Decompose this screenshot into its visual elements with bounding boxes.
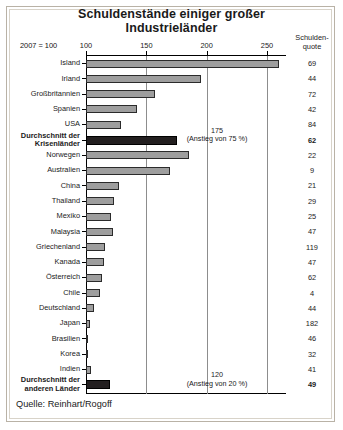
row-quote-value: 62 [288,133,336,148]
row-label: Australien [8,163,80,178]
bar[interactable] [86,151,189,159]
annotation-detail: (Anstieg von 20 %) [187,379,248,388]
row-label: Deutschland [8,301,80,316]
row-quote-value: 119 [288,240,336,255]
row-quote-value: 44 [288,71,336,86]
average-annotation: 120(Anstieg von 20 %) [157,371,277,388]
bar[interactable] [86,243,105,251]
bar[interactable] [86,274,102,282]
chart-row[interactable]: Chile4 [0,286,343,301]
bar[interactable] [86,350,88,358]
axis-tick-label: 100 [80,41,92,50]
row-quote-value: 32 [288,347,336,362]
bar[interactable] [86,60,279,68]
bar[interactable] [86,304,94,312]
bar[interactable] [86,75,201,83]
chart-row[interactable]: Malaysia47 [0,224,343,239]
row-quote-value: 182 [288,316,336,331]
row-quote-value: 29 [288,194,336,209]
row-quote-value: 47 [288,224,336,239]
chart-row[interactable]: Griechenland119 [0,240,343,255]
row-label: Spanien [8,102,80,117]
axis-tick-label: 250 [261,41,273,50]
row-label: Chile [8,286,80,301]
row-label: Island [8,56,80,71]
axis-bottom-line [86,393,286,394]
bar[interactable] [86,320,90,328]
chart-row[interactable]: China21 [0,178,343,193]
chart-row[interactable]: Brasilien46 [0,331,343,346]
chart-row[interactable]: Österreich62 [0,270,343,285]
row-label: China [8,178,80,193]
source-note: Quelle: Reinhart/Rogoff [16,399,112,409]
row-label: Kanada [8,255,80,270]
bar[interactable] [86,121,121,129]
row-label: Brasilien [8,331,80,346]
bar[interactable] [86,380,110,389]
chart-row[interactable]: Norwegen22 [0,148,343,163]
bar[interactable] [86,213,111,221]
chart-row[interactable]: Japan182 [0,316,343,331]
chart-row[interactable]: Irland44 [0,71,343,86]
bar[interactable] [86,366,91,374]
row-quote-value: 44 [288,301,336,316]
axis-tick-label: 150 [140,41,152,50]
bar[interactable] [86,289,100,297]
chart-row[interactable]: Island69 [0,56,343,71]
row-quote-value: 9 [288,163,336,178]
bar[interactable] [86,197,114,205]
row-label: USA [8,117,80,132]
row-label: Großbritannien [8,87,80,102]
row-quote-value: 69 [288,56,336,71]
row-label: Irland [8,71,80,86]
row-label: Österreich [8,270,80,285]
row-label: Norwegen [8,148,80,163]
bar[interactable] [86,228,113,236]
row-quote-value: 22 [288,148,336,163]
chart-row[interactable]: Deutschland44 [0,301,343,316]
annotation-detail: (Anstieg von 75 %) [187,134,248,143]
row-label: Korea [8,347,80,362]
chart-row[interactable]: Spanien42 [0,102,343,117]
row-quote-value: 25 [288,209,336,224]
row-quote-value: 84 [288,117,336,132]
chart-row[interactable]: Australien9 [0,163,343,178]
row-quote-value: 4 [288,286,336,301]
row-label: Japan [8,316,80,331]
row-quote-value: 47 [288,255,336,270]
chart-row[interactable]: Thailand29 [0,194,343,209]
row-label: Durchschnitt derKrisenländer [8,133,80,148]
row-quote-value: 21 [288,178,336,193]
row-label: Durchschnitt deranderen Länder [8,377,80,392]
chart-row[interactable]: Mexiko25 [0,209,343,224]
row-label: Mexiko [8,209,80,224]
row-label: Griechenland [8,240,80,255]
bar[interactable] [86,335,88,343]
bar[interactable] [86,182,119,190]
chart-row[interactable]: Korea32 [0,347,343,362]
axis-tick-label: 200 [200,41,212,50]
bar[interactable] [86,105,137,113]
chart-plot-area: 100150200250 Island69Irland44Großbritann… [0,0,343,430]
row-label: Thailand [8,194,80,209]
average-annotation: 175(Anstieg von 75 %) [157,127,277,144]
chart-row[interactable]: Kanada47 [0,255,343,270]
row-quote-value: 72 [288,87,336,102]
row-label: Malaysia [8,224,80,239]
chart-row[interactable]: Großbritannien72 [0,87,343,102]
row-quote-value: 46 [288,331,336,346]
bar[interactable] [86,258,104,266]
row-quote-value: 42 [288,102,336,117]
row-quote-value: 62 [288,270,336,285]
bar[interactable] [86,90,155,98]
row-quote-value: 49 [288,377,336,392]
row-quote-value: 41 [288,362,336,377]
bar[interactable] [86,167,170,175]
